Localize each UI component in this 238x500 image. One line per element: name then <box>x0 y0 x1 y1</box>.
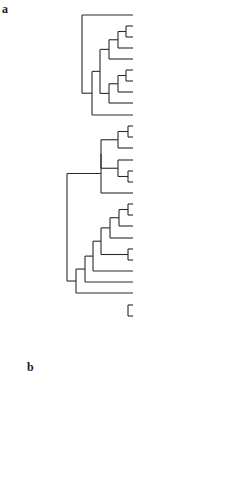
panel-label-a: a <box>2 2 8 17</box>
panel-label-b: b <box>27 360 34 375</box>
phylogenetic-tree-canvas <box>0 0 238 500</box>
